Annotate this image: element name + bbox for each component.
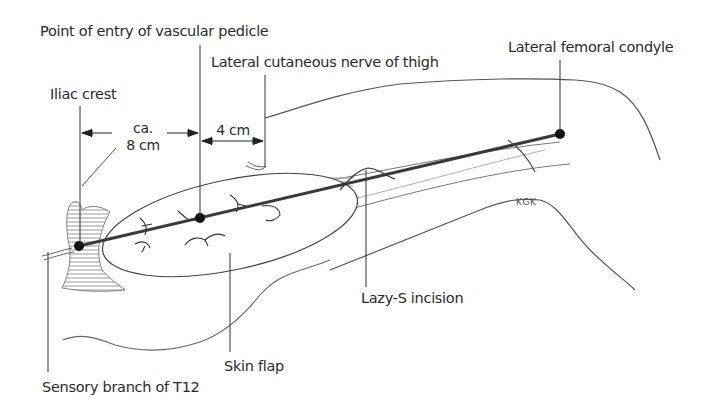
label-sensory-branch-t12: Sensory branch of T12: [42, 380, 200, 395]
label-lazy-s-incision: Lazy-S incision: [361, 291, 463, 306]
label-skin-flap: Skin flap: [224, 359, 284, 374]
figure: Point of entry of vascular pedicle Later…: [0, 0, 727, 415]
lcn-nerve-stub: [246, 162, 266, 170]
iliac-crest-point: [74, 241, 84, 251]
thigh-lower-contour: [330, 199, 635, 290]
artist-signature: KGK: [516, 197, 536, 207]
label-lateral-femoral-condyle: Lateral femoral condyle: [508, 40, 673, 55]
label-iliac-crest: Iliac crest: [50, 87, 116, 102]
dimension-8cm-line2: 8 cm: [118, 137, 168, 154]
label-lateral-cutaneous-nerve: Lateral cutaneous nerve of thigh: [211, 55, 439, 70]
label-pedicle-entry: Point of entry of vascular pedicle: [40, 24, 268, 39]
dimension-8cm-label: ca. 8 cm: [118, 120, 168, 154]
dimension-8cm-line1: ca.: [118, 120, 168, 137]
iliac-crest-line: [82, 148, 116, 186]
t12-nerve-stub: [42, 248, 74, 260]
dimension-4cm-label: 4 cm: [208, 122, 258, 139]
thigh-upper-contour: [265, 79, 660, 160]
